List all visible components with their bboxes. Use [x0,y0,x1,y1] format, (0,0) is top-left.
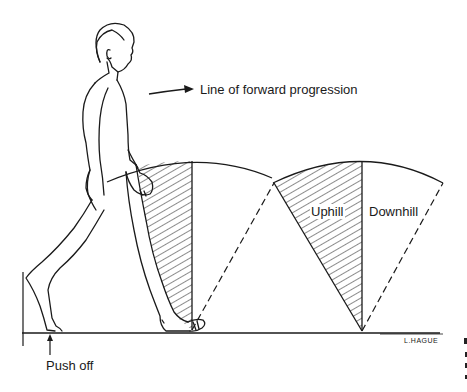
push-off-label: Push off [46,358,93,373]
uphill-label: Uphill [310,204,345,219]
artist-signature: L.HAGUE [404,337,438,344]
pendulum-sector-2 [274,161,443,331]
progression-arrow [149,85,194,94]
push-off-arrow [47,334,53,355]
progression-label: Line of forward progression [200,82,358,97]
pendulum-sector-1 [138,161,274,330]
gait-diagram [0,0,467,392]
downhill-label: Downhill [369,204,418,219]
